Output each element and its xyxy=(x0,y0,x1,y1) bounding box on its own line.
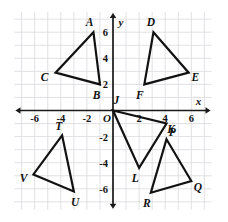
vertex-label-L: L xyxy=(131,172,139,184)
vertex-label-P: P xyxy=(169,126,177,138)
y-axis-name: y xyxy=(117,16,124,28)
x-tick-label: -2 xyxy=(83,113,92,124)
x-axis-arrow-left xyxy=(15,107,20,114)
triangle-TUV-outline xyxy=(33,135,73,191)
y-axis-arrow-up xyxy=(110,13,117,18)
y-tick-label: 4 xyxy=(103,53,109,64)
origin-label: O xyxy=(103,112,111,124)
vertex-label-Q: Q xyxy=(194,181,202,193)
triangle-PQR: PQR xyxy=(142,126,202,208)
vertex-label-F: F xyxy=(135,89,144,101)
vertex-label-T: T xyxy=(55,120,63,132)
x-axis-arrow-right xyxy=(206,107,211,114)
y-tick-label: -4 xyxy=(99,158,108,169)
vertex-label-D: D xyxy=(146,16,156,28)
vertex-label-R: R xyxy=(142,197,151,209)
vertex-label-A: A xyxy=(85,16,94,28)
vertex-label-U: U xyxy=(71,196,80,208)
triangle-PQR-outline xyxy=(151,139,191,193)
x-axis-name: x xyxy=(195,95,202,107)
vertex-label-C: C xyxy=(41,71,49,83)
x-tick-label: 2 xyxy=(136,113,141,124)
y-tick-label: 2 xyxy=(103,79,108,90)
y-tick-label: -2 xyxy=(99,132,108,143)
vertex-label-V: V xyxy=(20,172,29,184)
vertex-label-E: E xyxy=(190,71,199,83)
vertex-label-J: J xyxy=(112,94,120,106)
y-tick-label: 6 xyxy=(103,27,108,38)
coordinate-plane-figure: -6-4-2246642-2-4-6OxyACBDEFJKLPQRTVU xyxy=(0,0,228,222)
x-tick-label: 6 xyxy=(189,113,194,124)
x-tick-label: -6 xyxy=(30,113,39,124)
axis-names: xy xyxy=(117,16,202,106)
y-axis-arrow-down xyxy=(110,204,117,209)
coordinate-plane-svg: -6-4-2246642-2-4-6OxyACBDEFJKLPQRTVU xyxy=(0,0,228,222)
triangle-TUV: TVU xyxy=(20,120,80,208)
vertex-label-B: B xyxy=(92,89,101,101)
y-tick-label: -6 xyxy=(99,184,108,195)
